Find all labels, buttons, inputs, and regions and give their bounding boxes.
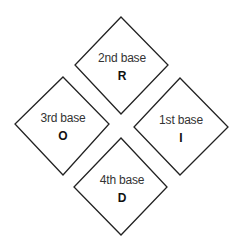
first-base-letter: I [161, 131, 201, 145]
third-base-diamond [15, 77, 109, 175]
second-base-label: 2nd base [82, 51, 162, 65]
third-base-label: 3rd base [23, 111, 103, 125]
first-base-label: 1st base [141, 113, 221, 127]
fourth-base-label: 4th base [82, 173, 162, 187]
second-base-letter: R [102, 69, 142, 83]
fourth-base-letter: D [102, 191, 142, 205]
third-base-letter: O [43, 129, 83, 143]
second-base-diamond [75, 17, 168, 114]
